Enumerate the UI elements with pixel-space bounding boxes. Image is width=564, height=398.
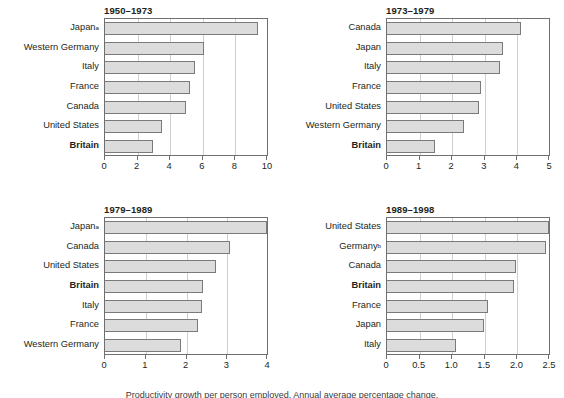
category-label: Japan xyxy=(282,38,381,58)
bar-row xyxy=(105,58,267,78)
category-label-text: Western Germany xyxy=(306,121,381,130)
bar-row xyxy=(105,19,267,39)
bar xyxy=(104,319,198,332)
chart-body: CanadaJapanItalyFranceUnited StatesWeste… xyxy=(282,18,564,172)
bar xyxy=(386,241,546,254)
bar xyxy=(104,42,204,55)
category-label: United States xyxy=(0,116,99,136)
category-label: Italy xyxy=(0,57,99,77)
figure-footnote: Productivity growth per person employed.… xyxy=(0,390,564,398)
category-label-text: France xyxy=(70,82,99,91)
bar xyxy=(104,221,267,234)
bar xyxy=(386,101,479,114)
category-label-text: Italy xyxy=(364,340,381,349)
x-axis: 00.51.01.52.02.5 xyxy=(386,354,550,371)
x-tick-label: 2 xyxy=(134,161,139,171)
x-tick-label: 2 xyxy=(449,161,454,171)
figure-grid: 1950–1973 JapanaWestern GermanyItalyFran… xyxy=(0,0,564,398)
x-tick-label: 1 xyxy=(142,360,147,370)
bar-row xyxy=(105,97,267,117)
category-label: Britain xyxy=(282,136,381,156)
category-label-text: Britain xyxy=(352,281,381,290)
bar-layer xyxy=(387,19,549,155)
bar xyxy=(386,22,521,35)
bar xyxy=(386,319,484,332)
x-tick xyxy=(137,156,138,160)
category-label: Canada xyxy=(282,18,381,38)
category-label-text: Canada xyxy=(348,23,381,32)
bar-row xyxy=(387,218,549,238)
x-tick xyxy=(419,156,420,160)
category-label: Western Germany xyxy=(282,116,381,136)
bar xyxy=(104,280,203,293)
bar-row xyxy=(387,19,549,39)
plot-wrapper: 01234 xyxy=(104,217,268,371)
bar xyxy=(104,300,202,313)
category-label-text: United States xyxy=(325,222,381,231)
bar-row xyxy=(105,277,267,297)
bar-row xyxy=(105,257,267,277)
chart-panel-3: 1989–1998 United StatesGermanybCanadaBri… xyxy=(282,199,564,398)
category-label-text: Britain xyxy=(352,141,381,150)
category-label-text: Japan xyxy=(356,320,381,329)
category-label-text: Japan xyxy=(70,23,95,32)
category-label: United States xyxy=(282,217,381,237)
category-label: United States xyxy=(282,96,381,116)
x-tick-label: 1.0 xyxy=(445,360,458,370)
category-label-text: Western Germany xyxy=(24,340,99,349)
bar-row xyxy=(387,117,549,137)
plot-wrapper: 00.51.01.52.02.5 xyxy=(386,217,550,371)
chart-panel-2: 1979–1989 JapanaCanadaUnited StatesBrita… xyxy=(0,199,282,398)
category-labels: United StatesGermanybCanadaBritainFrance… xyxy=(282,217,386,354)
bar-row xyxy=(387,58,549,78)
category-label-text: United States xyxy=(43,261,99,270)
x-axis: 01234 xyxy=(104,354,268,371)
category-label: Italy xyxy=(282,335,381,355)
plot-wrapper: 0246810 xyxy=(104,18,268,172)
x-tick-label: 0 xyxy=(383,360,388,370)
chart-panel-0: 1950–1973 JapanaWestern GermanyItalyFran… xyxy=(0,0,282,199)
category-label-text: Italy xyxy=(82,62,99,71)
bar-row xyxy=(105,39,267,59)
x-tick-label: 4 xyxy=(264,360,269,370)
bar-row xyxy=(387,316,549,336)
x-tick-label: 4 xyxy=(514,161,519,171)
category-label: Canada xyxy=(282,256,381,276)
bar-row xyxy=(387,78,549,98)
x-tick xyxy=(548,355,549,359)
bar-row xyxy=(387,257,549,277)
bar-row xyxy=(105,117,267,137)
chart-title: 1989–1998 xyxy=(386,204,434,215)
category-labels: CanadaJapanItalyFranceUnited StatesWeste… xyxy=(282,18,386,155)
bar xyxy=(386,339,456,352)
category-label: Japana xyxy=(0,217,99,237)
category-label: Germanyb xyxy=(282,237,381,257)
plot-area xyxy=(104,18,268,155)
bar-row xyxy=(105,238,267,258)
category-label: France xyxy=(0,77,99,97)
x-tick-label: 8 xyxy=(232,161,237,171)
x-axis: 012345 xyxy=(386,155,550,172)
bar xyxy=(386,140,435,153)
category-label-text: Canada xyxy=(348,261,381,270)
category-label: Britain xyxy=(0,136,99,156)
x-tick xyxy=(104,156,105,160)
x-tick-label: 2.0 xyxy=(510,360,523,370)
category-label-text: Western Germany xyxy=(24,43,99,52)
chart-title: 1979–1989 xyxy=(104,204,152,215)
x-tick-label: 10 xyxy=(262,161,272,171)
category-label-text: Japan xyxy=(70,222,95,231)
chart-title: 1973–1979 xyxy=(386,5,434,16)
bar-row xyxy=(387,97,549,117)
x-tick xyxy=(419,355,420,359)
bar-layer xyxy=(387,218,549,354)
x-tick-label: 2 xyxy=(183,360,188,370)
category-label-text: Italy xyxy=(364,62,381,71)
category-label-text: Italy xyxy=(82,301,99,310)
category-label: Western Germany xyxy=(0,335,99,355)
x-tick-label: 0 xyxy=(101,360,106,370)
bar xyxy=(386,81,481,94)
x-tick xyxy=(484,156,485,160)
category-label: Britain xyxy=(0,276,99,296)
bar xyxy=(386,221,549,234)
